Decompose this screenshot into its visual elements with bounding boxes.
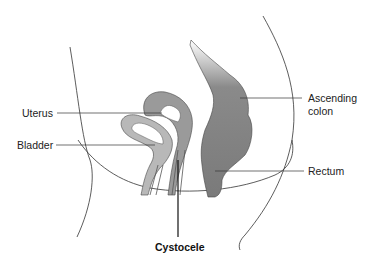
label-ascending-colon-1: Ascending <box>308 92 357 104</box>
label-rectum: Rectum <box>308 165 344 177</box>
label-bladder: Bladder <box>17 139 53 151</box>
cystocele-diagram <box>0 0 371 263</box>
label-uterus: Uterus <box>22 107 53 119</box>
label-ascending-colon-2: colon <box>308 105 333 117</box>
body-outline-left <box>70 47 92 237</box>
label-cystocele: Cystocele <box>155 241 205 253</box>
colon-rectum-shape <box>190 40 252 197</box>
